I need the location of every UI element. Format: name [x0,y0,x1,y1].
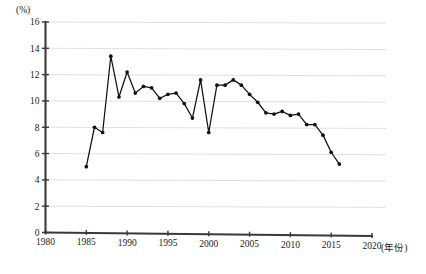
data-point-marker [313,123,317,127]
data-point-marker [321,133,325,137]
data-point-marker [109,54,113,58]
data-point-marker [264,111,268,115]
gridline [46,22,387,23]
data-point-marker [101,131,105,135]
data-point-marker [150,86,154,90]
gridline [46,180,387,181]
data-point-marker [93,125,97,129]
x-tick-label: 1995 [158,238,177,248]
y-tick-label: 4 [35,175,40,185]
gridline [46,206,387,207]
x-tick-label: 2020 [363,241,382,251]
y-tick-label: 2 [35,202,40,212]
gridline [46,101,387,102]
data-point-marker [240,83,244,87]
gridline [46,154,387,155]
data-point-marker [191,116,195,120]
data-point-marker [174,91,178,95]
x-tick-label: 1980 [36,237,55,247]
data-point-marker [158,96,162,100]
line-chart: 0246810121416 19801985199019952000200520… [0,0,426,274]
data-point-marker [231,78,235,82]
data-point-marker [215,83,219,87]
data-series-line [86,56,339,167]
data-point-marker [199,78,203,82]
data-point-marker [207,131,211,135]
data-point-marker [166,93,170,97]
y-tick-label: 14 [30,44,40,54]
data-point-marker [256,100,260,104]
data-point-marker [117,95,121,99]
data-point-marker [248,93,252,97]
data-point-marker [142,85,146,89]
data-point-marker [280,110,284,114]
y-tick-label: 10 [30,96,40,106]
data-point-marker [223,83,227,87]
y-tick-label: 16 [30,17,40,27]
gridline [46,48,387,49]
x-tick-label: 1985 [77,237,96,247]
x-tick-label: 2005 [240,239,259,249]
y-tick-label: 8 [35,123,40,133]
x-tick-label: 2010 [281,240,300,250]
data-point-marker [338,162,342,166]
data-point-marker [289,114,293,118]
gridlines [46,22,387,207]
data-point-marker [84,165,88,169]
data-point-marker [125,70,129,74]
x-tick-label: 1990 [118,238,137,248]
data-point-marker [133,91,137,95]
x-axis-label: (年份) [381,242,407,254]
gridline [46,75,387,76]
x-tick-label: 2000 [199,239,218,249]
data-point-marker [182,102,186,106]
data-point-marker [329,150,333,154]
y-axis-label: (%) [16,5,30,16]
data-point-marker [272,112,276,116]
chart-container: 0246810121416 19801985199019952000200520… [0,0,426,274]
y-tick-label: 12 [30,70,40,80]
data-point-marker [305,123,309,127]
y-tick-label: 6 [35,149,40,159]
x-tick-label: 2015 [322,240,341,250]
data-point-marker [297,112,301,116]
